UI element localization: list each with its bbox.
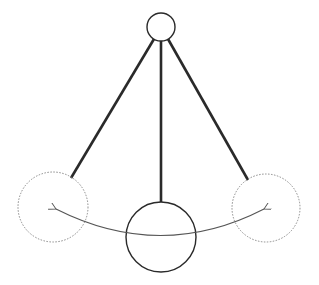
center-bob — [126, 202, 196, 272]
rod-left — [71, 39, 154, 178]
pivot-circle — [147, 13, 175, 41]
right-bob-ghost — [232, 174, 300, 242]
pendulum-diagram: Pendulum swing — [0, 0, 319, 285]
left-bob-ghost — [18, 172, 88, 242]
pendulum-rods — [71, 39, 248, 202]
rod-right — [168, 39, 248, 180]
